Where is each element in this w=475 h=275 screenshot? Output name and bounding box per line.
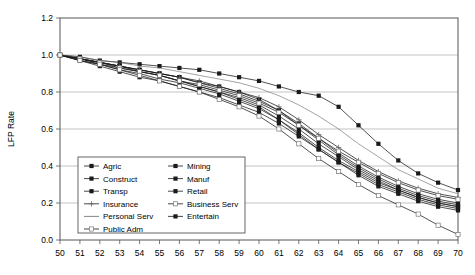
data-point [157,73,161,77]
x-tick-label: 60 [254,248,264,258]
data-point [89,189,93,193]
data-point [396,181,400,185]
x-tick-label: 64 [334,248,344,258]
data-point [89,227,93,231]
data-point [177,66,181,70]
data-point [78,58,82,62]
legend-label: Agric [103,162,121,171]
data-point [416,197,420,201]
legend-label: Construct [103,175,138,184]
y-axis-title: LFP Rate [6,111,16,147]
data-point [257,107,261,111]
data-point [396,158,400,162]
data-point [436,223,440,227]
data-point [98,62,102,66]
data-point [157,79,161,83]
x-tick-label: 63 [314,248,324,258]
legend-label: Transp [103,187,128,196]
data-point [58,53,62,57]
legend-label: Business Serv [187,200,238,209]
data-point [376,194,380,198]
x-tick-label: 61 [274,248,284,258]
data-point [257,101,261,105]
x-tick-label: 59 [234,248,244,258]
legend-label: Personal Serv [103,212,153,221]
data-point [337,105,341,109]
data-point [317,136,321,140]
x-tick-label: 69 [433,248,443,258]
data-point [89,164,93,168]
data-point [277,84,281,88]
data-point [197,68,201,72]
data-point [356,123,360,127]
data-point [356,160,360,164]
x-tick-label: 70 [453,248,463,258]
x-tick-label: 66 [374,248,384,258]
data-point [237,99,241,103]
data-point [436,194,440,198]
data-point [237,94,241,98]
data-point [337,149,341,153]
data-point [337,169,341,173]
data-point [297,134,301,138]
data-point [257,114,261,118]
data-point [376,177,380,181]
data-point [197,90,201,94]
legend-label: Manuf [187,175,210,184]
x-tick-label: 55 [155,248,165,258]
data-point [173,214,177,218]
x-tick-label: 57 [195,248,205,258]
data-point [456,206,460,210]
data-point [277,127,281,131]
legend-label: Retail [187,187,208,196]
x-tick-label: 67 [394,248,404,258]
chart-legend: AgricMiningConstructManufTranspRetailIns… [78,157,245,234]
x-tick-label: 62 [294,248,304,258]
data-point [356,166,360,170]
data-point [277,110,281,114]
data-point [396,203,400,207]
y-tick-label: 1.2 [41,13,53,23]
data-point [217,88,221,92]
data-point [217,97,221,101]
x-tick-label: 52 [95,248,105,258]
y-tick-label: 0.2 [41,198,53,208]
data-point [297,142,301,146]
data-point [173,189,177,193]
data-point [317,147,321,151]
x-tick-label: 65 [354,248,364,258]
data-point [237,105,241,109]
data-point [376,142,380,146]
data-point [396,190,400,194]
data-point [297,123,301,127]
data-point [376,182,380,186]
data-point [416,188,420,192]
data-point [356,182,360,186]
data-point [337,160,341,164]
data-point [416,171,420,175]
data-point [376,171,380,175]
legend-label: Entertain [187,212,219,221]
legend-label: Mining [187,162,211,171]
y-tick-label: 0.4 [41,161,53,171]
data-point [173,164,177,168]
y-tick-label: 0.6 [41,124,53,134]
x-tick-label: 68 [413,248,423,258]
x-tick-label: 53 [115,248,125,258]
data-point [317,142,321,146]
lfp-rate-line-chart: 0.00.20.40.60.81.01.25051525354555657585… [0,0,475,275]
data-point [197,83,201,87]
y-tick-label: 0.8 [41,87,53,97]
x-tick-label: 54 [135,248,145,258]
data-point [436,181,440,185]
data-point [217,71,221,75]
data-point [356,171,360,175]
data-point [237,75,241,79]
data-point [317,94,321,98]
data-point [138,73,142,77]
data-point [118,68,122,72]
data-point [297,90,301,94]
x-tick-label: 58 [214,248,224,258]
legend-label: Insurance [103,200,139,209]
data-point [277,118,281,122]
